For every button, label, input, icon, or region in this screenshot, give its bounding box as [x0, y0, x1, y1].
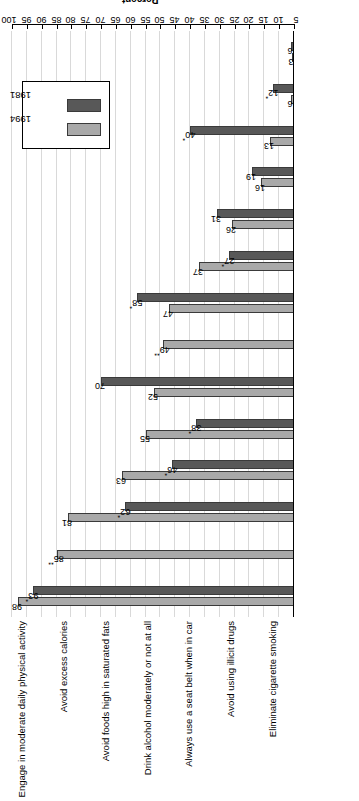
bar-1994: 98 [18, 597, 294, 606]
bar-group: 5270 [12, 366, 294, 408]
bar-value-label: 93* [25, 591, 38, 604]
bar-value-label: 19 [246, 172, 256, 181]
percent-axis-label: 55 [140, 15, 150, 24]
category-label: Avoid using illicit drugs [226, 621, 236, 717]
bar-value-label: 40* [183, 130, 196, 143]
bar-1981: 31 [217, 209, 294, 218]
percent-axis-label: 40 [185, 15, 195, 24]
bar-value-label: 12* [266, 88, 279, 101]
percent-axis-tick [220, 24, 221, 29]
percent-axis-tick [101, 24, 102, 29]
percent-axis-label: 95 [21, 15, 31, 24]
percent-axis-label: 20 [244, 15, 254, 24]
percent-axis-label: 75 [81, 15, 91, 24]
bar-group: 9893* [12, 575, 294, 617]
bar-1994: 85** [57, 550, 294, 559]
bar-1994: 16 [261, 178, 294, 187]
bar-value-label: 52 [148, 392, 158, 401]
percent-axis-label: 90 [36, 15, 46, 24]
category-label: Eliminate cigarette smoking [268, 621, 278, 737]
chart-legend: 19941981 [22, 81, 110, 149]
percent-axis-label: 80 [66, 15, 76, 24]
bar-1994: 26 [232, 220, 294, 229]
percent-axis-tick [71, 24, 72, 29]
category-label: Engage in moderate daily physical activi… [17, 621, 27, 797]
bar-group: 49** [12, 324, 294, 366]
bar-value-label: 58* [129, 298, 142, 311]
category-label: Drink alcohol moderately or not at all [143, 621, 153, 775]
bar-1981: 62* [125, 502, 294, 511]
bar-group: 4758* [12, 282, 294, 324]
percent-axis-tick [264, 24, 265, 29]
bar-value-label: 46* [165, 465, 178, 478]
bar-1981: 38* [196, 419, 294, 428]
axis-title-percent: Percent [122, 0, 159, 5]
legend-label-1994: 1994 [10, 114, 31, 124]
percent-axis-tick [42, 24, 43, 29]
bar-value-label: 62* [117, 507, 130, 520]
bar-value-label: 38* [189, 423, 202, 436]
percent-axis-tick [205, 24, 206, 29]
bar-group: 1619 [12, 157, 294, 199]
bar-value-label: 31 [211, 214, 221, 223]
percent-axis-tick [175, 24, 176, 29]
percent-axis-label: 65 [110, 15, 120, 24]
percent-axis-label: 70 [96, 15, 106, 24]
percent-axis-tick [249, 24, 250, 29]
percent-axis-label: 100 [1, 15, 16, 24]
percent-axis-tick [146, 24, 147, 29]
bar-value-label: 55 [140, 434, 150, 443]
bar-group: 5538* [12, 408, 294, 450]
bar-value-label: 85** [48, 554, 63, 567]
bar-value-label: 47 [163, 309, 173, 318]
bar-value-label: 63 [116, 476, 126, 485]
bar-1981: 46* [172, 461, 294, 470]
bar-1994: 13 [270, 137, 294, 146]
bar-value-label: 27* [221, 256, 234, 269]
percent-axis-tick [235, 24, 236, 29]
bar-1981: 19 [252, 167, 294, 176]
bar-1994: 55 [146, 430, 294, 439]
bar-1981: 93* [33, 586, 294, 595]
bar-1981: 40* [190, 126, 294, 135]
bar-value-label: 16 [255, 183, 265, 192]
category-label: Always use a seat belt when in car [184, 621, 194, 767]
bar-group: 85** [12, 533, 294, 575]
bar-group: 3727* [12, 240, 294, 282]
bar-value-label: 70 [95, 381, 105, 390]
category-label: Avoid excess calories [59, 621, 69, 712]
bar-group: 6346* [12, 450, 294, 492]
bar-group: 36 [12, 31, 294, 73]
legend-swatch-1981 [67, 99, 101, 112]
percent-axis-label: 35 [199, 15, 209, 24]
percent-axis-tick [57, 24, 58, 29]
bar-1994: 37 [199, 262, 294, 271]
bar-value-label: 26 [226, 225, 236, 234]
percent-axis-tick [27, 24, 28, 29]
percent-axis-label: 60 [125, 15, 135, 24]
bar-group: 2631 [12, 198, 294, 240]
bar-1994: 52 [154, 388, 294, 397]
bar-group: 8162* [12, 491, 294, 533]
bar-1981: 58* [137, 293, 294, 302]
percent-axis-tick [12, 24, 13, 29]
percent-axis-tick [279, 24, 280, 29]
percent-axis-label: 50 [155, 15, 165, 24]
legend-label-1981: 1981 [10, 90, 31, 100]
percent-axis-tick [190, 24, 191, 29]
category-label: Avoid foods high in saturated fats [101, 621, 111, 761]
percent-axis-label: 10 [274, 15, 284, 24]
percent-axis-label: 5 [293, 15, 298, 24]
bar-1981: 27* [229, 251, 294, 260]
bar-1994: 81 [68, 513, 294, 522]
percent-axis-label: 45 [170, 15, 180, 24]
bar-1994: 47 [169, 304, 294, 313]
percent-axis-label: 15 [259, 15, 269, 24]
bar-value-label: 13 [264, 141, 274, 150]
percent-axis-tick [116, 24, 117, 29]
percent-axis-label: 85 [51, 15, 61, 24]
bar-1981: 70 [101, 377, 294, 386]
percent-axis-label: 30 [214, 15, 224, 24]
